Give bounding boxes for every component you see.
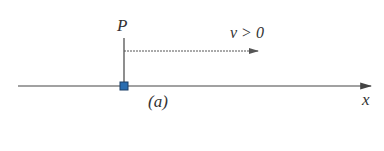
caption: (a) [148, 92, 168, 112]
axis-label: x [362, 90, 370, 110]
velocity-label: v > 0 [230, 24, 264, 42]
diagram-canvas [0, 0, 384, 151]
point-label: P [117, 16, 127, 36]
particle-marker [120, 82, 128, 90]
